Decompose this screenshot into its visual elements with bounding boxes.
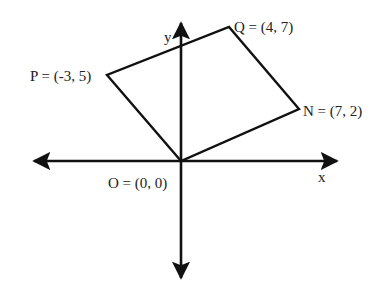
coordinate-diagram: y x Q = (4, 7) P = (-3, 5) N = (7, 2) O … bbox=[0, 0, 389, 286]
point-label-q: Q = (4, 7) bbox=[234, 19, 293, 36]
y-axis-label: y bbox=[164, 29, 172, 45]
x-axis-label: x bbox=[318, 169, 326, 185]
point-label-n: N = (7, 2) bbox=[303, 103, 362, 120]
point-label-p: P = (-3, 5) bbox=[30, 68, 91, 85]
point-label-o: O = (0, 0) bbox=[108, 175, 167, 192]
quadrilateral-OPQN bbox=[107, 27, 299, 161]
